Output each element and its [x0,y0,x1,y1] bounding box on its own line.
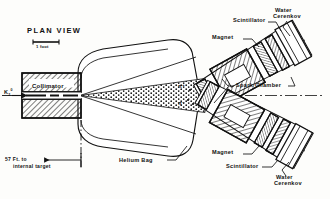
scale-bar-label: 1 foot [36,45,49,49]
target-distance-label-line1: 57 Ft. to [5,157,27,162]
pion-plus-label: π⁺ [178,84,185,89]
spark-chamber-label: Spark Chamber [236,83,281,89]
beam-label: K20 [4,89,13,98]
collimator [22,73,81,118]
pion-minus-label: π⁻ [178,101,185,106]
beam-superscript: 0 [11,88,13,92]
collimator-label: Collimator [32,83,64,89]
page-title: PLAN VIEW [27,27,81,35]
magnet-lower-label: Magnet [212,150,233,156]
scintillator-lower-label: Scintillator [226,164,259,170]
magnet-upper-label: Magnet [212,35,233,41]
water-cerenkov-lower-label-line2: Cerenkov [274,181,302,187]
target-distance-label-line2: internal target [13,164,51,169]
helium-bag-label: Helium Bag [119,158,153,164]
beam-subscript: 2 [8,93,10,97]
scintillator-upper-label: Scintillator [233,18,266,24]
water-cerenkov-upper-label-line2: Cerenkov [273,14,301,20]
